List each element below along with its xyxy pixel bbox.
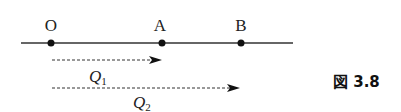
label-o: O [45, 16, 57, 35]
arrow-q1-head-icon [149, 56, 162, 64]
figure-caption: 図 3.8 [333, 70, 380, 91]
label-a: A [154, 16, 167, 35]
point-a [159, 40, 166, 47]
point-b [238, 40, 245, 47]
label-q1: Q1 [89, 67, 107, 87]
point-o [48, 40, 55, 47]
label-q2: Q2 [133, 93, 151, 112]
label-b: B [235, 16, 246, 35]
number-line-diagram: O A B Q1 Q2 [0, 0, 401, 112]
